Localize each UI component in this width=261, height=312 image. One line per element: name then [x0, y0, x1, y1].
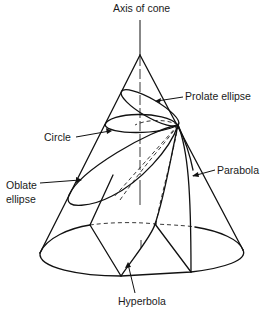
circle-pointer — [76, 131, 110, 137]
axis-label: Axis of cone — [113, 2, 170, 14]
base-ellipse-back-dashed — [90, 223, 195, 227]
hyperbola-left-branch — [90, 175, 121, 276]
oblate-ellipse-label-line2: ellipse — [6, 193, 36, 205]
oblate-ellipse-label-line1: Oblate — [6, 179, 37, 191]
circle-section-back — [105, 114, 178, 125]
hidden-line-2 — [120, 125, 178, 200]
hyperbola-right-branch — [121, 125, 178, 276]
oblate-pointer — [40, 180, 80, 183]
hyperbola-pointer — [128, 264, 135, 293]
hyperbola-center-line — [155, 224, 191, 272]
cone-diagram — [0, 0, 261, 312]
parabola-arrowhead — [192, 172, 199, 177]
parabola-label: Parabola — [217, 164, 259, 176]
oblate-arrowhead — [76, 177, 82, 183]
base-ellipse-back-right — [195, 227, 243, 250]
cone-left-edge — [40, 55, 140, 253]
circle-section-front — [105, 125, 178, 133]
circle-label: Circle — [44, 131, 71, 143]
prolate-ellipse — [117, 84, 183, 133]
prolate-ellipse-label: Prolate ellipse — [185, 90, 251, 102]
hyperbola-label: Hyperbola — [118, 295, 166, 307]
prolate-pointer — [157, 97, 183, 101]
base-ellipse-front — [40, 250, 244, 276]
hidden-line-1 — [113, 125, 178, 198]
